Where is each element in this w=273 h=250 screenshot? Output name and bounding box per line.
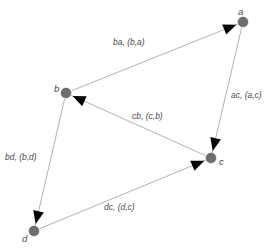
node-label-b: b — [54, 84, 59, 94]
graph-node-d[interactable] — [29, 226, 39, 236]
node-label-c: c — [219, 157, 224, 167]
graph-diagram-canvas: abcd ba, (b,a)ac, (a,c)cb, (c,b)bd, (b,d… — [0, 0, 273, 250]
edge-line-ba — [72, 24, 238, 91]
edge-label-bd: bd, (b,d) — [5, 153, 37, 162]
edges-layer — [35, 24, 241, 229]
edge-label-ac: ac, (a,c) — [231, 91, 262, 100]
arrowhead-ac — [210, 137, 221, 151]
edge-line-cb — [71, 95, 206, 155]
arrowhead-ba — [222, 25, 236, 35]
graph-node-b[interactable] — [61, 88, 71, 98]
node-label-a: a — [238, 7, 243, 17]
edge-label-dc: dc, (d,c) — [104, 203, 135, 212]
node-label-d: d — [22, 234, 27, 244]
graph-node-a[interactable] — [238, 17, 248, 27]
edge-label-ba: ba, (b,a) — [113, 38, 145, 47]
arrowhead-bd — [33, 210, 44, 224]
edge-line-dc — [40, 160, 206, 229]
edge-label-cb: cb, (c,b) — [132, 112, 163, 121]
graph-node-c[interactable] — [206, 153, 216, 163]
edge-line-bd — [35, 99, 64, 226]
nodes-layer — [29, 17, 248, 236]
arrowhead-dc — [190, 161, 204, 171]
